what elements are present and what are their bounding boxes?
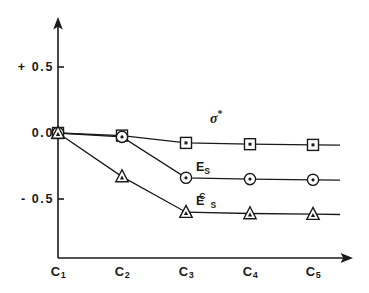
sigma-star-sup: *: [218, 108, 223, 119]
x-tick-label-c4: C4: [243, 264, 257, 279]
marker-circle: [244, 174, 255, 185]
x-tick-c1-sub: 1: [61, 270, 66, 280]
x-tick-c3-base: C: [179, 264, 188, 279]
x-tick-label-c3: C3: [179, 264, 193, 279]
x-tick-label-c5: C5: [306, 264, 320, 279]
sigma-glyph: σ: [210, 111, 218, 126]
x-tick-label-c2: C2: [115, 264, 129, 279]
x-tick-c1-base: C: [51, 264, 60, 279]
es-sub: S: [204, 166, 210, 176]
x-tick-c2-base: C: [115, 264, 124, 279]
marker-triangle: [244, 207, 256, 219]
marker-square: [308, 139, 319, 150]
marker-triangle: [180, 205, 192, 217]
y-tick-label-plus-half: + 0.5: [14, 60, 54, 74]
marker-triangle: [116, 170, 128, 182]
x-tick-c2-sub: 2: [125, 270, 130, 280]
marker-square: [181, 137, 192, 148]
x-tick-c4-sub: 4: [253, 270, 258, 280]
y-tick-label-zero: 0.0: [14, 126, 54, 140]
marker-square: [245, 139, 256, 150]
esc-sub: S: [210, 200, 216, 210]
x-tick-c3-sub: 3: [189, 270, 194, 280]
marker-circle: [307, 174, 318, 185]
esc-sup: C: [199, 191, 205, 201]
marker-triangle: [307, 207, 319, 219]
x-tick-c5-base: C: [306, 264, 315, 279]
x-tick-label-c1: C1: [51, 264, 65, 279]
chart-plot-area: [0, 0, 369, 293]
series-sigma-star: [53, 128, 341, 151]
chart-figure: + 0.5 0.0 - 0.5 C1 C2 C3 C4 C5 σ* ES ECS: [0, 0, 369, 293]
x-tick-c5-sub: 5: [316, 270, 321, 280]
marker-circle: [180, 172, 191, 183]
x-tick-c4-base: C: [243, 264, 252, 279]
series-es: [52, 127, 340, 185]
series-label-es: ES: [196, 160, 210, 174]
series-label-es-c: ECS: [196, 194, 216, 208]
y-tick-label-minus-half: - 0.5: [14, 192, 54, 206]
marker-circle: [116, 131, 127, 142]
series-label-sigma-star: σ*: [210, 108, 223, 127]
